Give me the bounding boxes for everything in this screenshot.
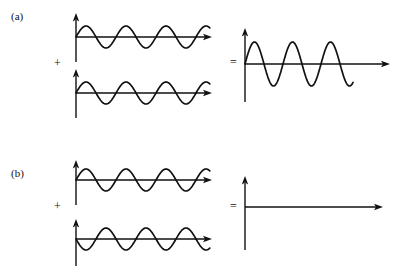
wave-a-input-2 xyxy=(73,69,212,118)
wave-interference-figure: (a) + = (b) + = xyxy=(0,0,402,273)
wave-plots-svg xyxy=(0,0,402,273)
wave-b-result xyxy=(242,176,383,250)
wave-a-input-1 xyxy=(73,13,212,62)
wave-a-result xyxy=(242,28,390,102)
wave-b-input-1 xyxy=(73,160,212,205)
wave-b-input-2 xyxy=(73,219,212,266)
